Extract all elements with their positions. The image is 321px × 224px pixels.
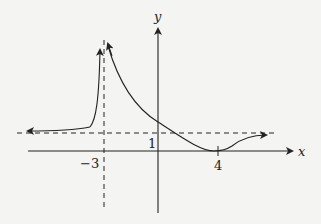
curve-left-branch <box>90 50 100 127</box>
graph-canvas: y x −3 4 1 <box>0 0 321 224</box>
curve-left-tail <box>28 127 90 131</box>
tick-label-1: 1 <box>148 136 156 151</box>
y-axis-label: y <box>153 9 162 24</box>
tick-label-neg3: −3 <box>80 156 99 171</box>
curve-right-branch <box>108 46 266 151</box>
x-axis-label: x <box>298 144 306 159</box>
tick-label-4: 4 <box>214 158 222 173</box>
